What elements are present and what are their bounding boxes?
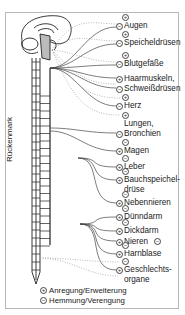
organ-label: Harnblase [124, 249, 161, 258]
minus-circle-icon: − [116, 40, 123, 47]
spinal-rami [40, 96, 50, 246]
plus-circle-icon: + [40, 287, 47, 294]
organ-label: Magen [124, 146, 149, 155]
nerve-fiber [50, 68, 116, 78]
minus-circle-icon: − [116, 131, 123, 138]
nerve-fibers [50, 27, 116, 270]
brain-illustration [22, 16, 72, 60]
organ-label: Herz [124, 101, 141, 110]
organ-label: Nebennieren [124, 198, 171, 207]
minus-circle-icon: − [122, 155, 129, 162]
parasympathetic-fiber [52, 38, 118, 50]
parasympathetic-fibers [40, 23, 120, 276]
organ-label: Haarmuskeln, [124, 74, 175, 83]
minus-circle-icon: − [116, 86, 123, 93]
parasympathetic-fiber [52, 50, 118, 62]
minus-circle-icon: − [116, 103, 123, 110]
parasympathetic-fiber [52, 23, 120, 50]
plus-circle-icon: + [116, 251, 123, 258]
organ-label: Dickdarm [124, 226, 159, 235]
organ-label: Bronchien [124, 129, 161, 138]
plus-circle-icon: + [116, 148, 123, 155]
minus-circle-icon: − [122, 219, 129, 226]
organ-label: Schweißdrüsen [124, 84, 180, 93]
nerve-fiber [80, 224, 116, 241]
parasympathetic-fiber [40, 258, 120, 262]
plus-circle-icon: + [122, 31, 129, 38]
nerve-fiber [80, 217, 116, 224]
parasympathetic-fiber [40, 258, 118, 276]
legend-item-inhibition: − Hemmung/Verengung [40, 296, 127, 306]
minus-circle-icon: − [154, 238, 161, 245]
legend-item-excitation: + Anregung/Erweiterung [40, 286, 127, 296]
organ-label: Dünndarm [124, 212, 162, 221]
parasympathetic-fiber [52, 50, 116, 84]
nerve-fiber [50, 27, 116, 68]
minus-circle-icon: − [40, 297, 47, 304]
organ-label: Speicheldrüsen [124, 38, 180, 47]
legend: + Anregung/Erweiterung − Hemmung/Verengu… [40, 286, 127, 305]
organ-label: Blutgefäße [124, 59, 164, 68]
plus-circle-icon: + [116, 228, 123, 235]
plus-circle-icon: + [116, 267, 123, 274]
spinal-cord-label: Rückenmark [5, 117, 14, 162]
spinal-cord [32, 58, 40, 284]
nerve-fiber [50, 131, 116, 151]
organ-label: organe [124, 275, 150, 284]
plus-circle-icon: + [122, 112, 129, 119]
minus-circle-icon: − [122, 258, 129, 265]
plus-circle-icon: + [116, 76, 123, 83]
minus-circle-icon: − [116, 23, 123, 30]
legend-label: Anregung/Erweiterung [49, 286, 127, 296]
plus-circle-icon: + [122, 14, 129, 21]
plus-circle-icon: + [116, 177, 123, 184]
minus-circle-icon: − [122, 242, 129, 249]
legend-label: Hemmung/Verengung [49, 296, 125, 306]
minus-circle-icon: − [122, 205, 129, 212]
minus-circle-icon: − [122, 139, 129, 146]
nerve-fiber [50, 68, 116, 88]
plus-circle-icon: + [122, 52, 129, 59]
organ-label: Augen [124, 21, 148, 30]
minus-circle-icon: − [122, 191, 129, 198]
organ-label: Bauchspeichel- [124, 175, 180, 184]
nerve-fiber [50, 44, 116, 68]
plus-circle-icon: + [122, 94, 129, 101]
nerve-fiber [78, 158, 116, 203]
organ-label: Geschlechts- [124, 265, 172, 274]
organ-label: Lungen, [124, 119, 154, 128]
nerve-fiber [78, 158, 116, 180]
minus-circle-icon: − [122, 168, 129, 175]
minus-circle-icon: − [116, 61, 123, 68]
